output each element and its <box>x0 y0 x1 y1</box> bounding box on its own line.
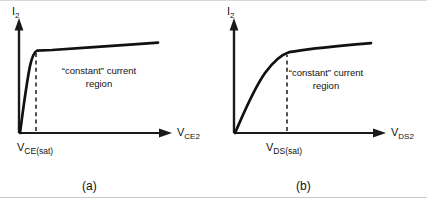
panel-b-plot <box>213 0 426 210</box>
panel-b-region-line-1: “constant” current <box>271 66 381 79</box>
panel-a-saturation-voltage-label: VCE(sat) <box>17 142 53 156</box>
panel-b: I2 VDS2 VDS(sat) “constant” current regi… <box>213 0 426 210</box>
panel-b-x-axis-label: VDS2 <box>391 127 414 141</box>
panel-a: I2 VCE2 VCE(sat) “constant” current regi… <box>0 0 213 210</box>
panel-b-y-axis-label-sub: 2 <box>230 11 234 20</box>
panel-a-x-axis-arrowhead <box>159 129 172 138</box>
figure-bottom-border <box>0 197 427 198</box>
panel-b-region-line-2: region <box>271 79 381 92</box>
panel-b-constant-current-region-annotation: “constant” current region <box>271 66 381 92</box>
panel-b-saturation-voltage-sub: DS(sat) <box>273 146 302 156</box>
panel-a-plot <box>0 0 213 210</box>
panel-b-x-axis-arrowhead <box>373 129 386 138</box>
panel-b-saturation-voltage-label: VDS(sat) <box>266 142 302 156</box>
panel-b-x-axis-label-sub: DS2 <box>398 132 414 141</box>
panel-a-region-line-1: “constant” current <box>44 64 154 77</box>
panel-a-region-line-2: region <box>44 77 154 90</box>
panel-a-x-axis-label-sub: CE2 <box>184 132 200 141</box>
panel-b-caption: (b) <box>296 180 311 192</box>
panel-a-saturation-voltage-sub: CE(sat) <box>24 146 53 156</box>
panel-a-constant-current-region-annotation: “constant” current region <box>44 64 154 90</box>
panel-a-y-axis-label-sub: 2 <box>15 11 19 20</box>
panel-b-y-axis-label: I2 <box>227 6 235 20</box>
panel-a-caption: (a) <box>82 180 97 192</box>
figure-container: I2 VCE2 VCE(sat) “constant” current regi… <box>0 0 427 210</box>
panel-a-x-axis-label: VCE2 <box>177 127 200 141</box>
panel-a-y-axis-label: I2 <box>12 6 20 20</box>
